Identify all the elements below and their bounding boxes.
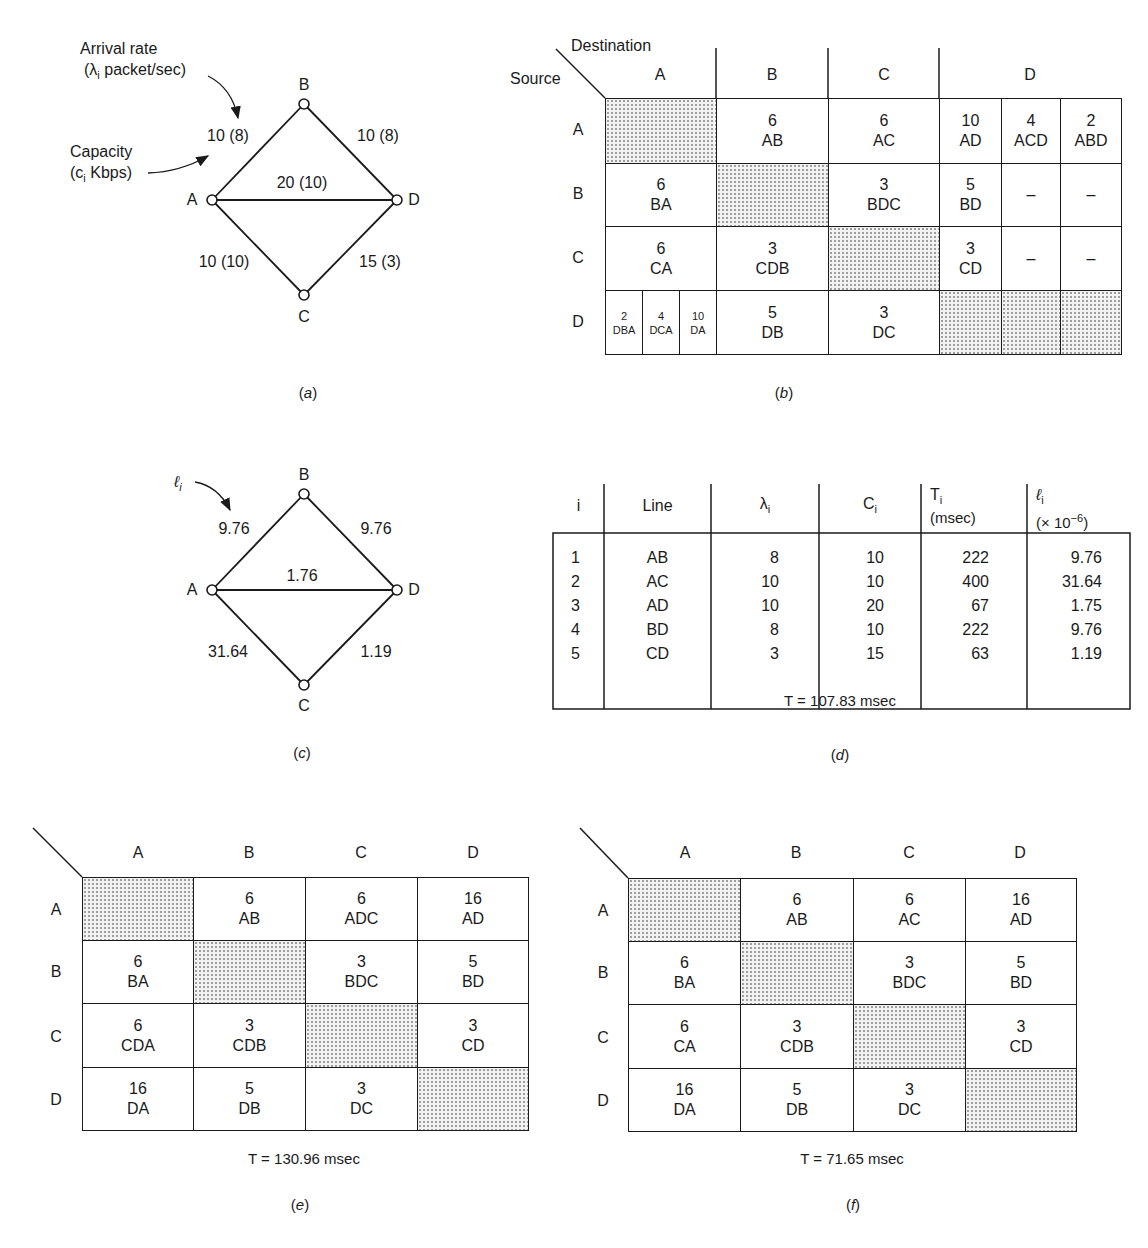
cell-f-B-D: 5BD (965, 941, 1077, 1005)
cell-b-C-A: 6CA (605, 226, 717, 291)
row-3-lambda: 10 (711, 594, 779, 618)
cell-f-C-D: 3CD (965, 1004, 1077, 1069)
node-label-B: B (299, 466, 310, 484)
col-header-B: B (767, 66, 778, 84)
row-3-capacity: 20 (819, 594, 884, 618)
node-label-D: D (408, 581, 420, 599)
cell-b-A-D-3: 2ABD (1060, 98, 1122, 164)
row-1-line: AB (604, 546, 711, 570)
row-4-line: BD (604, 618, 711, 642)
row-header-C: C (50, 1028, 62, 1046)
corner-destination: Destination (571, 37, 651, 55)
col-header-B: B (791, 844, 802, 862)
capacity-arrow (148, 156, 208, 173)
row-2-lambda: 10 (711, 570, 779, 594)
col-header-A: A (680, 844, 691, 862)
node-label-A: A (187, 581, 198, 599)
cell-f-C-A: 6CA (628, 1004, 741, 1069)
cell-e-B-D: 5BD (417, 940, 529, 1004)
row-header-A: A (51, 901, 62, 919)
col-header-A: A (133, 844, 144, 862)
row-2-line: AC (604, 570, 711, 594)
cell-e-D-D (417, 1067, 529, 1131)
col-header-D: D (1014, 844, 1026, 862)
cell-e-B-C: 3BDC (305, 940, 418, 1004)
node-label-A: A (187, 191, 198, 209)
node-label-B: B (299, 76, 310, 94)
row-2-capacity: 10 (819, 570, 884, 594)
cell-b-D-B: 5DB (716, 290, 829, 355)
cell-b-C-D-3: – (1060, 226, 1122, 291)
col-header-C: C (878, 66, 890, 84)
table-f-diagonal (580, 828, 628, 878)
cell-f-C-C (853, 1004, 966, 1069)
node-label-C: C (298, 308, 310, 326)
cell-b-D-D-1 (939, 290, 1002, 355)
caption-d: (d) (831, 746, 849, 763)
row-2-delay: 400 (921, 570, 989, 594)
caption-f: (f) (846, 1196, 860, 1213)
cell-f-B-B (740, 941, 854, 1005)
row-1-lambda: 8 (711, 546, 779, 570)
cell-e-D-A: 16DA (82, 1067, 194, 1131)
figure-caption-cutoff (240, 1236, 900, 1248)
node-label-D: D (408, 191, 420, 209)
row-2-i: 2 (571, 570, 591, 594)
cell-e-C-D: 3CD (417, 1003, 529, 1068)
edge-label-AC: 31.64 (208, 643, 248, 661)
row-4-i: 4 (571, 618, 591, 642)
cell-b-D-D-3 (1060, 290, 1122, 355)
caption-b: (b) (775, 384, 793, 401)
cell-f-B-A: 6BA (628, 941, 741, 1005)
row-header-C: C (597, 1029, 609, 1047)
row-header-D: D (572, 313, 584, 331)
cell-e-D-B: 5DB (193, 1067, 306, 1131)
cell-b-D-A-1: 2DBA (605, 290, 643, 355)
caption-e: (e) (291, 1196, 309, 1213)
cell-b-B-A: 6BA (605, 163, 717, 227)
cell-b-C-D-1: 3CD (939, 226, 1002, 291)
cell-e-C-B: 3CDB (193, 1003, 306, 1068)
col-header-C: C (355, 844, 367, 862)
row-5-length: 1.19 (1027, 642, 1102, 666)
row-header-B: B (51, 963, 62, 981)
cell-e-A-A (82, 877, 194, 941)
row-4-capacity: 10 (819, 618, 884, 642)
header-delay: Ti(msec) (930, 486, 1027, 527)
node-a-A (207, 195, 217, 205)
capacity-title: Capacity (70, 143, 132, 161)
cell-b-A-C: 6AC (828, 98, 940, 164)
table-b-diagonal (556, 49, 605, 98)
edge-label-AD: 1.76 (286, 567, 317, 585)
edge-label-CD: 1.19 (360, 643, 391, 661)
row-4-lambda: 8 (711, 618, 779, 642)
cell-b-D-A-2: 4DCA (642, 290, 680, 355)
row-3-delay: 67 (921, 594, 989, 618)
arrival-rate-arrow (208, 76, 238, 118)
caption-c: (c) (293, 744, 311, 761)
cell-b-C-D-2: – (1001, 226, 1061, 291)
row-5-capacity: 15 (819, 642, 884, 666)
edge-label-BD: 10 (8) (357, 127, 399, 145)
table-e-diagonal (33, 828, 82, 877)
row-3-i: 3 (571, 594, 591, 618)
row-4-length: 9.76 (1027, 618, 1102, 642)
row-header-A: A (573, 121, 584, 139)
cell-f-D-B: 5DB (740, 1068, 854, 1132)
row-header-A: A (598, 902, 609, 920)
cell-b-D-C: 3DC (828, 290, 940, 355)
edge-a-CD (304, 200, 397, 295)
row-5-line: CD (604, 642, 711, 666)
total-delay-d: T = 107.83 msec (784, 692, 896, 709)
cell-e-A-C: 6ADC (305, 877, 418, 941)
l-i-arrow (195, 482, 230, 510)
cell-e-D-C: 3DC (305, 1067, 418, 1131)
cell-f-B-C: 3BDC (853, 941, 966, 1005)
cell-b-A-B: 6AB (716, 98, 829, 164)
cell-b-B-C: 3BDC (828, 163, 940, 227)
row-5-i: 5 (571, 642, 591, 666)
row-1-length: 9.76 (1027, 546, 1102, 570)
l-i-annotation: ℓi (174, 473, 182, 496)
cell-b-B-D-3: – (1060, 163, 1122, 227)
corner-source: Source (510, 70, 561, 88)
